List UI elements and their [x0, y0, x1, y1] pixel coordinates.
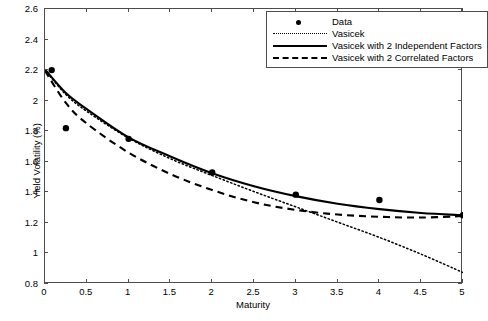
y-tick-label: 2.2	[0, 64, 38, 75]
y-tick	[44, 283, 48, 284]
x-tick-bottom	[337, 279, 338, 283]
y-tick	[44, 39, 48, 40]
y-tick	[44, 69, 48, 70]
y-tick-label: 2.4	[0, 33, 38, 44]
y-axis-title: Yield Volatility (%)	[31, 81, 42, 241]
legend-item-correlated-factors: Vasicek with 2 Correlated Factors	[271, 52, 482, 63]
series-line-solid	[45, 69, 463, 215]
x-tick-bottom	[462, 279, 463, 283]
legend-item-independent-factors: Vasicek with 2 Independent Factors	[271, 40, 482, 51]
y-tick	[458, 69, 462, 70]
legend: Data Vasicek Vasicek with 2 Independent …	[266, 11, 488, 68]
legend-marker-icon	[271, 16, 329, 27]
legend-label: Data	[329, 16, 352, 27]
legend-label: Vasicek with 2 Independent Factors	[329, 40, 482, 51]
x-tick-bottom	[378, 279, 379, 283]
y-tick-label: 0.8	[0, 278, 38, 289]
x-tick-bottom	[44, 279, 45, 283]
x-tick-label: 4.5	[414, 286, 427, 297]
x-tick-top	[169, 8, 170, 12]
data-point	[460, 212, 463, 218]
legend-solid-line-icon	[271, 40, 329, 51]
x-tick-bottom	[211, 279, 212, 283]
data-point	[63, 125, 69, 131]
x-tick-bottom	[295, 279, 296, 283]
y-tick	[44, 191, 48, 192]
data-point	[293, 191, 299, 197]
x-tick-label: 3	[292, 286, 297, 297]
data-markers	[48, 67, 463, 219]
legend-item-data: Data	[271, 16, 482, 27]
x-tick-top	[253, 8, 254, 12]
y-tick	[458, 100, 462, 101]
y-tick	[44, 222, 48, 223]
x-tick-label: 3.5	[330, 286, 343, 297]
data-point	[48, 67, 54, 73]
y-tick	[44, 161, 48, 162]
x-tick-top	[211, 8, 212, 12]
series-line-dashed	[45, 71, 463, 218]
legend-dashed-line-icon	[271, 52, 329, 63]
x-tick-bottom	[253, 279, 254, 283]
x-tick-top	[128, 8, 129, 12]
y-tick	[44, 130, 48, 131]
x-tick-label: 1	[125, 286, 130, 297]
data-point	[209, 169, 215, 175]
legend-label: Vasicek with 2 Correlated Factors	[329, 52, 473, 63]
y-tick	[458, 191, 462, 192]
y-tick	[44, 252, 48, 253]
x-tick-bottom	[128, 279, 129, 283]
x-tick-label: 0	[41, 286, 46, 297]
y-tick	[458, 130, 462, 131]
x-tick-bottom	[86, 279, 87, 283]
x-tick-label: 2.5	[246, 286, 259, 297]
x-axis-title: Maturity	[44, 299, 462, 310]
y-tick-label: 1	[0, 247, 38, 258]
data-point	[376, 197, 382, 203]
x-tick-top	[86, 8, 87, 12]
y-tick	[458, 252, 462, 253]
x-tick-top	[44, 8, 45, 12]
legend-item-vasicek: Vasicek	[271, 28, 482, 39]
legend-label: Vasicek	[329, 28, 365, 39]
series-layer	[45, 69, 463, 272]
x-tick-label: 2	[209, 286, 214, 297]
x-tick-label: 4	[376, 286, 381, 297]
legend-dotted-line-icon	[271, 28, 329, 39]
x-tick-label: 1.5	[163, 286, 176, 297]
y-tick	[44, 100, 48, 101]
y-tick-label: 2.6	[0, 3, 38, 14]
data-point	[125, 136, 131, 142]
y-tick	[458, 283, 462, 284]
x-tick-label: 5	[459, 286, 464, 297]
y-tick	[458, 222, 462, 223]
y-tick	[458, 161, 462, 162]
x-tick-bottom	[169, 279, 170, 283]
x-tick-bottom	[420, 279, 421, 283]
series-line-dotted	[45, 70, 463, 272]
x-tick-label: 0.5	[79, 286, 92, 297]
